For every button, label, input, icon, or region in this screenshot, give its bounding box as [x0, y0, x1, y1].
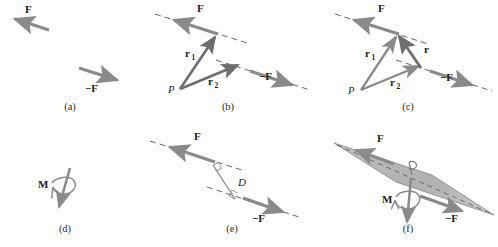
- label-distance-d: D: [237, 176, 246, 188]
- label-vector-r2-subscript: 2: [215, 81, 219, 90]
- caption-panel-e: (e): [226, 223, 238, 235]
- label-force-negative-f: −F: [259, 70, 272, 82]
- label-vector-r1: r: [185, 47, 190, 59]
- label-force-f: F: [378, 2, 385, 14]
- label-vector-r: r: [424, 43, 429, 55]
- caption-panel-f: (f): [403, 223, 414, 235]
- panel-d: M (d): [38, 168, 75, 235]
- label-point-p: P: [347, 85, 355, 96]
- distance-segment: [213, 165, 235, 199]
- label-force-negative-f: −F: [440, 71, 453, 83]
- label-vector-r1-subscript: 1: [192, 53, 196, 62]
- label-vector-r2-subscript: 2: [397, 82, 401, 91]
- panel-b: F −F r 1 r 2 P (b): [155, 2, 310, 113]
- moment-vector: [59, 168, 70, 207]
- figure-root: F −F (a) F −F r 1 r 2 P (b): [0, 0, 498, 247]
- label-moment-m: M: [38, 178, 49, 190]
- force-arrow-negative-f: [79, 68, 117, 80]
- label-vector-r1-subscript: 1: [372, 53, 376, 62]
- force-arrow-f: [15, 19, 49, 30]
- label-force-negative-f: −F: [252, 212, 265, 224]
- caption-panel-b: (b): [222, 101, 235, 113]
- force-arrow-f: [354, 20, 399, 34]
- panel-c: F −F r 1 r 2 r P (c): [335, 2, 492, 113]
- label-force-f: F: [197, 2, 204, 14]
- figure-canvas: F −F (a) F −F r 1 r 2 P (b): [0, 0, 498, 247]
- vector-r: [399, 36, 421, 68]
- label-moment-m: M: [382, 193, 393, 205]
- caption-panel-d: (d): [59, 223, 72, 235]
- label-vector-r2: r: [390, 76, 395, 88]
- label-force-f: F: [194, 130, 201, 142]
- label-vector-r1: r: [365, 47, 370, 59]
- label-point-p: P: [167, 84, 175, 95]
- label-force-f: F: [25, 3, 32, 15]
- label-force-f: F: [377, 132, 384, 144]
- caption-panel-a: (a): [64, 101, 76, 113]
- label-vector-r2: r: [208, 75, 213, 87]
- panel-f: F −F M (f): [334, 132, 494, 235]
- label-force-negative-f: −F: [85, 82, 98, 94]
- label-force-negative-f: −F: [445, 212, 458, 224]
- force-arrow-f: [170, 147, 215, 162]
- panel-e: F −F D (e): [150, 130, 302, 235]
- panel-a: F −F (a): [15, 3, 117, 113]
- caption-panel-c: (c): [402, 101, 414, 113]
- force-arrow-f: [174, 20, 218, 34]
- force-arrow-negative-f: [243, 198, 283, 212]
